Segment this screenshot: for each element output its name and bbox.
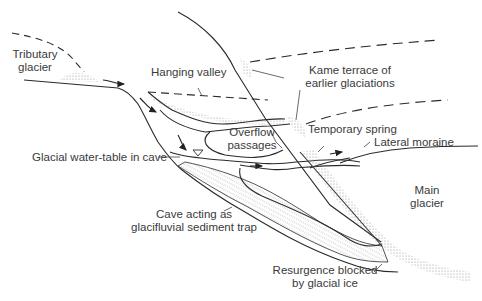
leader-lateral-moraine [364,142,370,147]
label-temporary-spring: Temporary spring [308,123,397,136]
label-line: Cave acting as [122,208,266,221]
label-line: Resurgence blocked [270,264,380,277]
label-line: glacier [5,61,65,74]
label-line: glacier [405,197,449,210]
flow-arrow-icon [178,135,186,150]
leader-kame-upper [252,70,284,78]
flow-arrow-icon [330,152,342,154]
label-overflow-passages: Overflow passages [222,126,282,152]
label-line: by glacial ice [270,277,380,290]
leader-spring [318,146,324,152]
upper-glacier-dashed [250,40,440,62]
flow-arrow-icon [103,80,124,84]
tributary-moraine [60,73,100,82]
leader-kame-lower [296,90,300,120]
label-hanging-valley: Hanging valley [151,66,226,79]
lower-glacier-dashed [306,100,448,124]
label-line: Kame terrace of [290,64,410,77]
label-line: passages [222,139,282,152]
label-main-glacier: Main glacier [405,184,449,210]
label-line: Tributary [5,48,65,61]
water-table-symbol-icon [193,150,203,156]
label-tributary-glacier: Tributary glacier [5,48,65,74]
label-kame-terrace: Kame terrace of earlier glaciations [290,64,410,90]
label-glacial-water-table: Glacial water-table in cave [32,151,167,164]
label-lateral-moraine: Lateral moraine [374,136,454,149]
label-sediment-trap: Cave acting as glacifluvial sediment tra… [122,208,266,234]
label-line: Overflow [222,126,282,139]
label-line: earlier glaciations [290,77,410,90]
label-line: Main [405,184,449,197]
leader-hanging-valley [198,88,202,96]
label-resurgence: Resurgence blocked by glacial ice [270,264,380,290]
glacial-cave-diagram: Tributary glacier Hanging valley Kame te… [0,0,482,301]
label-line: glacifluvial sediment trap [122,221,266,234]
kame-terrace-upper [240,58,252,78]
